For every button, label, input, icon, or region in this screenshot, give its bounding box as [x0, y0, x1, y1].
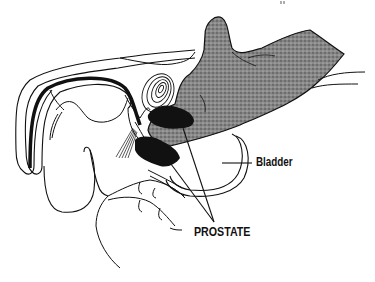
- perineum-lines: [96, 170, 185, 268]
- scrotum: [44, 147, 108, 212]
- pubic-contour: [50, 90, 128, 140]
- anatomy-figure: Bladder PROSTATE: [0, 0, 375, 282]
- muscle-fibers: [116, 128, 137, 158]
- bladder-label: Bladder: [256, 155, 293, 169]
- pelvis-sagittal-illustration: [0, 0, 375, 282]
- top-artifact: [281, 1, 284, 4]
- prostate-label: PROSTATE: [194, 224, 250, 239]
